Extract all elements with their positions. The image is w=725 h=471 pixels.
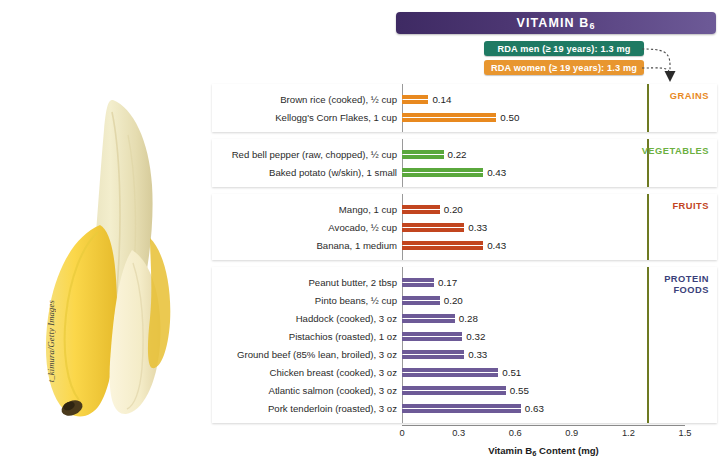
bar-container: 0.55 — [402, 381, 717, 399]
bar-container: 0.43 — [402, 163, 717, 181]
banana-photo: t_kimura/Getty Images — [0, 0, 210, 471]
chart-row: Mango, 1 cup0.20 — [212, 200, 717, 218]
chart-row: Peanut butter, 2 tbsp0.17 — [212, 273, 717, 291]
rda-connector-arrow — [640, 41, 680, 87]
food-label: Pinto beans, ½ cup — [212, 295, 402, 306]
bar-container: 0.28 — [402, 309, 717, 327]
bar-container: 0.50 — [402, 108, 717, 126]
chart-row: Kellogg's Corn Flakes, 1 cup0.50 — [212, 108, 717, 126]
chart-row: Pinto beans, ½ cup0.20 — [212, 291, 717, 309]
bar-value-label: 0.43 — [487, 240, 506, 251]
bar — [402, 350, 464, 359]
food-label: Mango, 1 cup — [212, 204, 402, 215]
bar-value-label: 0.22 — [448, 149, 467, 160]
bar — [402, 278, 434, 287]
page-title-text: VITAMIN B6 — [517, 16, 596, 30]
bar — [402, 113, 496, 122]
arrow-head-icon — [665, 71, 676, 82]
banana-peel-edge — [148, 238, 170, 368]
bar — [402, 296, 440, 305]
x-axis: Vitamin B6 Content (mg) 00.30.60.91.21.5 — [212, 425, 717, 465]
x-axis-tick: 0.6 — [509, 428, 522, 438]
food-label: Atlantic salmon (cooked), 3 oz — [212, 385, 402, 396]
chart-row: Baked potato (w/skin), 1 small0.43 — [212, 163, 717, 181]
chart-row: Red bell pepper (raw, chopped), ½ cup0.2… — [212, 145, 717, 163]
food-label: Ground beef (85% lean, broiled), 3 oz — [212, 349, 402, 360]
bar — [402, 332, 462, 341]
food-label: Baked potato (w/skin), 1 small — [212, 167, 402, 178]
x-axis-line — [402, 425, 685, 426]
chart-row: Avocado, ½ cup0.33 — [212, 218, 717, 236]
vitamin-b6-chart: GRAINSBrown rice (cooked), ½ cup0.14Kell… — [212, 84, 717, 424]
bar-container: 0.17 — [402, 273, 717, 291]
bar-container: 0.22 — [402, 145, 717, 163]
bar-value-label: 0.33 — [468, 222, 487, 233]
x-axis-tick: 0.3 — [452, 428, 465, 438]
food-label: Pork tenderloin (roasted), 3 oz — [212, 403, 402, 414]
bar — [402, 223, 464, 232]
bar-value-label: 0.50 — [500, 112, 519, 123]
chart-row: Pork tenderloin (roasted), 3 oz0.63 — [212, 399, 717, 417]
x-axis-title: Vitamin B6 Content (mg) — [402, 445, 685, 456]
food-label: Chicken breast (cooked), 3 oz — [212, 367, 402, 378]
bar-value-label: 0.55 — [510, 385, 529, 396]
food-label: Banana, 1 medium — [212, 240, 402, 251]
chart-row: Pistachios (roasted), 1 oz0.32 — [212, 327, 717, 345]
bar — [402, 404, 521, 413]
chart-row: Haddock (cooked), 3 oz0.28 — [212, 309, 717, 327]
bar-value-label: 0.20 — [444, 295, 463, 306]
banana-illustration — [0, 0, 210, 471]
bar — [402, 150, 444, 159]
photo-credit: t_kimura/Getty Images — [46, 300, 56, 382]
bar-value-label: 0.63 — [525, 403, 544, 414]
food-label: Red bell pepper (raw, chopped), ½ cup — [212, 149, 402, 160]
food-label: Brown rice (cooked), ½ cup — [212, 94, 402, 105]
food-label: Pistachios (roasted), 1 oz — [212, 331, 402, 342]
bar — [402, 168, 483, 177]
bar-value-label: 0.43 — [487, 167, 506, 178]
food-label: Haddock (cooked), 3 oz — [212, 313, 402, 324]
bar — [402, 314, 455, 323]
bar — [402, 386, 506, 395]
bar-container: 0.51 — [402, 363, 717, 381]
bar-container: 0.33 — [402, 218, 717, 236]
food-group-vegetables: VEGETABLESRed bell pepper (raw, chopped)… — [212, 139, 717, 187]
food-group-grains: GRAINSBrown rice (cooked), ½ cup0.14Kell… — [212, 84, 717, 132]
page-title: VITAMIN B6 — [396, 12, 716, 34]
food-label: Peanut butter, 2 tbsp — [212, 277, 402, 288]
chart-row: Atlantic salmon (cooked), 3 oz0.55 — [212, 381, 717, 399]
x-axis-tick: 0.9 — [565, 428, 578, 438]
x-axis-tick: 1.5 — [679, 428, 692, 438]
chart-row: Chicken breast (cooked), 3 oz0.51 — [212, 363, 717, 381]
food-group-protein-foods: PROTEINFOODSPeanut butter, 2 tbsp0.17Pin… — [212, 267, 717, 423]
bar-container: 0.20 — [402, 291, 717, 309]
bar-container: 0.43 — [402, 236, 717, 254]
bar-container: 0.20 — [402, 200, 717, 218]
chart-row: Brown rice (cooked), ½ cup0.14 — [212, 90, 717, 108]
food-group-fruits: FRUITSMango, 1 cup0.20Avocado, ½ cup0.33… — [212, 194, 717, 260]
bar — [402, 95, 428, 104]
x-axis-tick: 0 — [399, 428, 404, 438]
bar-value-label: 0.28 — [459, 313, 478, 324]
bar-container: 0.14 — [402, 90, 717, 108]
rda-men-badge: RDA men (≥ 19 years): 1.3 mg — [484, 41, 644, 56]
bar-value-label: 0.51 — [502, 367, 521, 378]
bar — [402, 368, 498, 377]
chart-row: Banana, 1 medium0.43 — [212, 236, 717, 254]
rda-women-badge: RDA women (≥ 19 years): 1.3 mg — [484, 60, 644, 75]
bar-container: 0.32 — [402, 327, 717, 345]
bar-value-label: 0.33 — [468, 349, 487, 360]
bar-value-label: 0.14 — [432, 94, 451, 105]
bar-value-label: 0.17 — [438, 277, 457, 288]
bar — [402, 205, 440, 214]
bar-value-label: 0.20 — [444, 204, 463, 215]
bar — [402, 241, 483, 250]
food-label: Kellogg's Corn Flakes, 1 cup — [212, 112, 402, 123]
bar-container: 0.63 — [402, 399, 717, 417]
food-label: Avocado, ½ cup — [212, 222, 402, 233]
bar-container: 0.33 — [402, 345, 717, 363]
chart-row: Ground beef (85% lean, broiled), 3 oz0.3… — [212, 345, 717, 363]
x-axis-tick: 1.2 — [622, 428, 635, 438]
bar-value-label: 0.32 — [466, 331, 485, 342]
